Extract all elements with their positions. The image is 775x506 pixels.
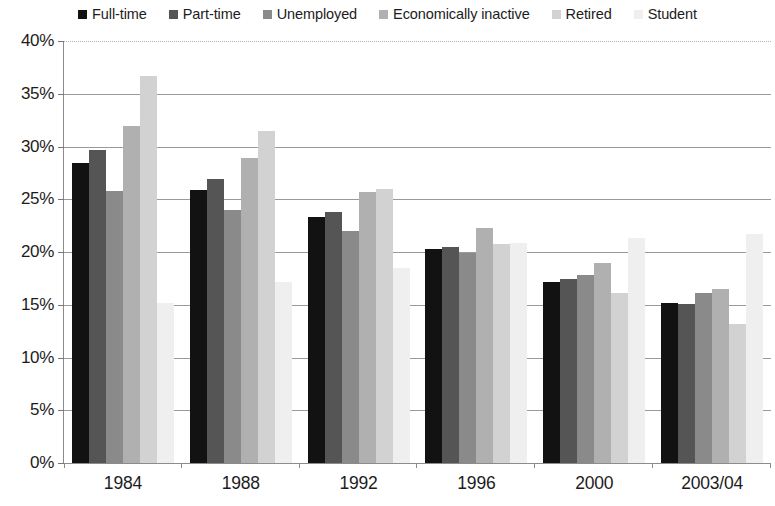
y-axis-tick-label: 25%: [0, 189, 54, 209]
x-axis-tick-mark: [181, 463, 182, 468]
legend-item[interactable]: Retired: [552, 6, 612, 22]
plot-area: 0%5%10%15%20%25%30%35%40% 19841988199219…: [63, 41, 771, 464]
legend-item-label: Retired: [566, 6, 612, 22]
legend-item[interactable]: Unemployed: [263, 6, 357, 22]
bar[interactable]: [543, 282, 560, 463]
bar-group: 2003/04: [653, 41, 771, 463]
bar[interactable]: [393, 268, 410, 463]
y-axis-tick-label: 10%: [0, 348, 54, 368]
bar[interactable]: [746, 234, 763, 463]
bar[interactable]: [157, 303, 174, 463]
x-axis-tick-mark: [770, 463, 771, 468]
bar[interactable]: [190, 190, 207, 463]
bar[interactable]: [493, 244, 510, 463]
bar[interactable]: [712, 289, 729, 463]
bar[interactable]: [678, 304, 695, 463]
bar[interactable]: [207, 179, 224, 463]
chart-legend: Full-timePart-timeUnemployedEconomically…: [0, 0, 775, 28]
bar[interactable]: [241, 158, 258, 463]
x-axis-tick-mark: [299, 463, 300, 468]
bar[interactable]: [359, 192, 376, 463]
bar-set: [653, 41, 771, 463]
x-axis-tick-mark: [534, 463, 535, 468]
bar[interactable]: [476, 228, 493, 463]
bar[interactable]: [224, 210, 241, 463]
bar[interactable]: [628, 238, 645, 463]
y-axis-tick-label: 30%: [0, 137, 54, 157]
legend-item-label: Unemployed: [277, 6, 357, 22]
x-axis-tick-label: 1984: [64, 473, 182, 494]
bar-groups: 198419881992199620002003/04: [64, 41, 771, 463]
legend-swatch-icon: [552, 10, 561, 19]
bar[interactable]: [123, 126, 140, 463]
bar[interactable]: [308, 217, 325, 463]
y-axis-tick-label: 0%: [0, 453, 54, 473]
bar-set: [535, 41, 653, 463]
bar[interactable]: [140, 76, 157, 463]
legend-item[interactable]: Full-time: [78, 6, 147, 22]
bar[interactable]: [258, 131, 275, 463]
bar[interactable]: [442, 247, 459, 463]
legend-item[interactable]: Economically inactive: [379, 6, 530, 22]
bar[interactable]: [560, 279, 577, 463]
y-axis-tick-label: 5%: [0, 400, 54, 420]
bar-group: 1992: [300, 41, 418, 463]
bar-set: [300, 41, 418, 463]
legend-swatch-icon: [263, 10, 272, 19]
legend-swatch-icon: [169, 10, 178, 19]
bar-chart: Full-timePart-timeUnemployedEconomically…: [0, 0, 775, 506]
bar-set: [64, 41, 182, 463]
bar[interactable]: [577, 275, 594, 463]
x-axis-tick-label: 1992: [300, 473, 418, 494]
y-axis-tick-label: 40%: [0, 31, 54, 51]
legend-swatch-icon: [78, 10, 87, 19]
legend-item[interactable]: Student: [634, 6, 697, 22]
bar[interactable]: [661, 303, 678, 463]
bar[interactable]: [89, 150, 106, 463]
x-axis-tick-label: 1988: [182, 473, 300, 494]
bar[interactable]: [510, 243, 527, 463]
bar[interactable]: [729, 324, 746, 463]
bar-group: 1996: [417, 41, 535, 463]
y-axis-tick-label: 20%: [0, 242, 54, 262]
bar[interactable]: [275, 282, 292, 463]
legend-swatch-icon: [379, 10, 388, 19]
y-axis-tick-label: 15%: [0, 295, 54, 315]
bar-set: [417, 41, 535, 463]
legend-swatch-icon: [634, 10, 643, 19]
x-axis-tick-mark: [64, 463, 65, 468]
bar-group: 1984: [64, 41, 182, 463]
x-axis-tick-mark: [416, 463, 417, 468]
bar[interactable]: [106, 191, 123, 463]
bar-group: 1988: [182, 41, 300, 463]
bar[interactable]: [425, 249, 442, 463]
x-axis-tick-label: 1996: [417, 473, 535, 494]
legend-item-label: Economically inactive: [393, 6, 530, 22]
x-axis-tick-mark: [652, 463, 653, 468]
legend-item-label: Student: [648, 6, 697, 22]
x-axis-tick-label: 2000: [535, 473, 653, 494]
bar[interactable]: [611, 293, 628, 463]
bar[interactable]: [376, 189, 393, 463]
legend-item-label: Full-time: [92, 6, 147, 22]
x-axis-tick-label: 2003/04: [653, 473, 771, 494]
legend-item[interactable]: Part-time: [169, 6, 241, 22]
bar[interactable]: [325, 212, 342, 463]
legend-item-label: Part-time: [183, 6, 241, 22]
bar[interactable]: [695, 293, 712, 463]
bar-set: [182, 41, 300, 463]
bar[interactable]: [459, 253, 476, 463]
bar[interactable]: [72, 163, 89, 463]
bar[interactable]: [594, 263, 611, 463]
y-axis-tick-label: 35%: [0, 84, 54, 104]
bar-group: 2000: [535, 41, 653, 463]
bar[interactable]: [342, 231, 359, 463]
